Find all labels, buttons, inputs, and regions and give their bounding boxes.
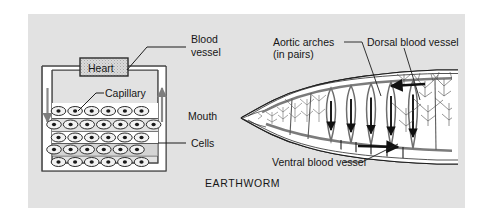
cell xyxy=(118,158,133,167)
cell xyxy=(118,133,133,142)
cell xyxy=(130,120,145,129)
cell xyxy=(68,107,83,116)
cell-nucleus xyxy=(90,109,94,112)
cell xyxy=(97,120,112,129)
cell xyxy=(134,133,149,142)
cell xyxy=(97,145,112,154)
cell-nucleus xyxy=(118,148,122,151)
cell-nucleus xyxy=(102,123,106,126)
cell-nucleus xyxy=(85,123,89,126)
cell xyxy=(63,145,78,154)
cell-nucleus xyxy=(123,160,127,163)
cell xyxy=(101,158,116,167)
cell xyxy=(134,158,149,167)
cell-nucleus xyxy=(85,148,89,151)
cell-nucleus xyxy=(106,109,110,112)
label-cells: Cells xyxy=(191,137,214,150)
label-aortic-arches-line2: (in pairs) xyxy=(273,48,314,61)
cell-nucleus xyxy=(73,109,77,112)
cell xyxy=(113,145,128,154)
cell-nucleus xyxy=(139,109,143,112)
cell xyxy=(63,120,78,129)
cell xyxy=(84,107,99,116)
label-heart: Heart xyxy=(88,62,114,75)
cell xyxy=(101,133,116,142)
cell-nucleus xyxy=(135,123,139,126)
label-blood-vessel-line2: vessel xyxy=(191,46,221,59)
cell xyxy=(118,107,133,116)
cell-nucleus xyxy=(152,123,156,126)
cell xyxy=(113,120,128,129)
cell-nucleus xyxy=(102,148,106,151)
cell-nucleus xyxy=(123,109,127,112)
left-schematic-group xyxy=(42,47,186,171)
cell-nucleus xyxy=(90,160,94,163)
label-aortic-arches-line1: Aortic arches xyxy=(273,36,334,49)
cell xyxy=(101,107,116,116)
label-mouth: Mouth xyxy=(188,110,217,123)
label-dorsal-blood-vessel: Dorsal blood vessel xyxy=(367,36,459,49)
label-capillary: Capillary xyxy=(105,87,146,100)
cell xyxy=(80,145,95,154)
cell xyxy=(84,133,99,142)
cell xyxy=(68,133,83,142)
cell-nucleus xyxy=(73,136,77,139)
cell-nucleus xyxy=(56,136,60,139)
cell xyxy=(146,120,161,129)
cell-nucleus xyxy=(123,136,127,139)
cell xyxy=(130,145,145,154)
cell-nucleus xyxy=(56,160,60,163)
cell xyxy=(47,120,62,129)
cell xyxy=(134,107,149,116)
cell xyxy=(84,158,99,167)
cell-nucleus xyxy=(52,148,56,151)
cell xyxy=(47,145,62,154)
cell-nucleus xyxy=(73,160,77,163)
earthworm-circulation-figure: Blood vessel Heart Capillary Cells Mouth… xyxy=(0,0,494,221)
cell xyxy=(51,158,66,167)
label-blood-vessel-line1: Blood xyxy=(191,33,218,46)
cell-nucleus xyxy=(135,148,139,151)
label-ventral-blood-vessel: Ventral blood vessel xyxy=(272,156,366,169)
cell-nucleus xyxy=(106,136,110,139)
figure-caption: EARTHWORM xyxy=(205,177,280,190)
cell xyxy=(68,158,83,167)
cell xyxy=(80,120,95,129)
cell-nucleus xyxy=(106,160,110,163)
cell-nucleus xyxy=(139,160,143,163)
cell-nucleus xyxy=(56,109,60,112)
cell-nucleus xyxy=(69,123,73,126)
cell-nucleus xyxy=(139,136,143,139)
cell-nucleus xyxy=(69,148,73,151)
cell-nucleus xyxy=(90,136,94,139)
cell-nucleus xyxy=(52,123,56,126)
cell xyxy=(51,107,66,116)
cell xyxy=(51,133,66,142)
cell-nucleus xyxy=(118,123,122,126)
